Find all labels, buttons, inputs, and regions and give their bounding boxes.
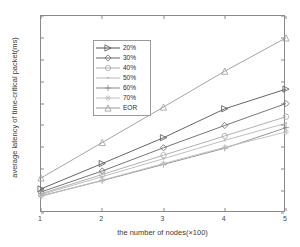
legend-label: 60% — [120, 83, 136, 93]
legend-label: 30% — [120, 53, 136, 63]
x-tick-mark — [286, 208, 287, 211]
legend-marker-icon — [101, 53, 115, 63]
data-point-marker — [285, 122, 287, 124]
y-tick-mark — [281, 103, 284, 104]
series-30pct — [38, 100, 289, 195]
legend-marker-icon — [101, 93, 115, 103]
legend-sample — [96, 73, 120, 83]
legend-sample — [96, 63, 120, 73]
legend-sample — [96, 83, 120, 93]
legend-marker-icon — [101, 103, 115, 113]
chart-figure: average latency of time-critical packet(… — [0, 0, 300, 247]
chart-legend: 20%30%40%50%60%70%EOR — [93, 40, 151, 116]
plot-frame: 20%30%40%50%60%70%EOR — [40, 15, 285, 212]
x-tick-label: 5 — [283, 215, 287, 222]
x-tick-mark — [286, 16, 287, 19]
plot-area — [41, 16, 284, 211]
x-tick-label: 2 — [99, 215, 103, 222]
legend-item-60pct[interactable]: 60% — [96, 83, 148, 93]
legend-item-20pct[interactable]: 20% — [96, 43, 148, 53]
y-tick-mark — [281, 169, 284, 170]
x-tick-mark — [163, 208, 164, 211]
x-tick-label: 3 — [161, 215, 165, 222]
y-tick-mark — [41, 147, 44, 148]
legend-sample — [96, 103, 120, 113]
series-line — [41, 117, 286, 194]
y-axis-label: average latency of time-critical packet(… — [10, 28, 19, 188]
legend-label: 70% — [120, 93, 136, 103]
data-point-marker — [105, 65, 110, 70]
legend-item-40pct[interactable]: 40% — [96, 63, 148, 73]
legend-label: EOR — [120, 103, 137, 113]
x-tick-label: 4 — [222, 215, 226, 222]
legend-label: 40% — [120, 63, 136, 73]
y-tick-mark — [281, 16, 284, 17]
y-tick-mark — [281, 147, 284, 148]
series-line — [41, 104, 286, 192]
legend-item-30pct[interactable]: 30% — [96, 53, 148, 63]
y-tick-mark — [281, 59, 284, 60]
y-tick-mark — [41, 37, 44, 38]
x-tick-mark — [224, 208, 225, 211]
x-tick-mark — [41, 208, 42, 211]
x-tick-label: 1 — [38, 215, 42, 222]
y-tick-mark — [41, 103, 44, 104]
legend-marker-icon — [101, 63, 115, 73]
x-tick-mark — [41, 16, 42, 19]
y-tick-mark — [41, 191, 44, 192]
legend-marker-icon — [101, 83, 115, 93]
y-tick-mark — [41, 125, 44, 126]
legend-marker-icon — [101, 43, 115, 53]
y-tick-mark — [41, 59, 44, 60]
y-tick-mark — [281, 125, 284, 126]
data-point-marker — [105, 55, 111, 61]
data-point-marker — [105, 45, 111, 51]
data-point-marker — [224, 139, 226, 141]
data-point-marker — [38, 193, 44, 199]
legend-label: 20% — [120, 43, 136, 53]
y-tick-mark — [281, 191, 284, 192]
legend-item-70pct[interactable]: 70% — [96, 93, 148, 103]
series-line — [41, 38, 286, 178]
data-point-marker — [283, 86, 289, 92]
x-tick-mark — [224, 16, 225, 19]
y-tick-mark — [41, 169, 44, 170]
legend-label: 50% — [120, 73, 136, 83]
y-tick-mark — [281, 81, 284, 82]
legend-item-50pct[interactable]: 50% — [96, 73, 148, 83]
legend-sample — [96, 53, 120, 63]
y-tick-mark — [41, 81, 44, 82]
data-point-marker — [222, 144, 228, 150]
data-point-marker — [105, 105, 111, 111]
x-tick-mark — [102, 16, 103, 19]
series-50pct — [40, 122, 287, 196]
data-point-marker — [107, 77, 109, 79]
series-canvas — [41, 16, 286, 213]
y-tick-mark — [41, 213, 44, 214]
data-point-marker — [99, 177, 105, 183]
legend-sample — [96, 93, 120, 103]
y-tick-mark — [281, 37, 284, 38]
data-point-marker — [160, 160, 166, 166]
x-axis-label: the number of nodes(×100) — [40, 228, 285, 237]
legend-marker-icon — [101, 73, 115, 83]
data-point-marker — [162, 158, 164, 160]
x-tick-mark — [163, 16, 164, 19]
data-point-marker — [283, 114, 288, 119]
legend-item-eor[interactable]: EOR — [96, 103, 148, 113]
data-point-marker — [283, 129, 289, 135]
data-point-marker — [105, 95, 111, 101]
legend-sample — [96, 43, 120, 53]
y-tick-mark — [281, 213, 284, 214]
data-point-marker — [105, 85, 111, 91]
x-tick-mark — [102, 208, 103, 211]
